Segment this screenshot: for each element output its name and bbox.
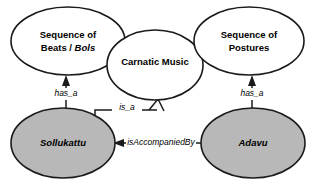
edge-label-has-a-postures: has_a <box>240 88 263 98</box>
node-sequence-of-postures[interactable]: Sequence of Postures <box>194 7 304 75</box>
node-label-postures-line2: Postures <box>229 42 270 53</box>
edge-label-is-accompanied-by: isAccompaniedBy <box>127 137 195 147</box>
edge-label-is-a: is_a <box>119 102 135 112</box>
node-carnatic-music[interactable]: Carnatic Music <box>107 30 203 100</box>
edge-is-a-carnatic: is_a <box>95 99 164 123</box>
node-label-beats-line2: Beats / Bols <box>41 42 95 53</box>
edge-label-has-a-beats: has_a <box>54 88 77 98</box>
edge-has-a-postures: has_a <box>234 75 270 108</box>
node-label-beats-line1: Sequence of <box>40 29 97 40</box>
node-sollukattu[interactable]: Sollukattu <box>11 108 115 178</box>
node-label-carnatic-music: Carnatic Music <box>121 56 189 67</box>
node-label-postures-line1: Sequence of <box>221 29 278 40</box>
arrowhead-filled-beats <box>62 75 70 86</box>
node-label-adavu: Adavu <box>237 137 267 148</box>
edge-is-accompanied-by: isAccompaniedBy <box>113 137 201 149</box>
node-label-beats-plain: Beats / <box>41 42 75 53</box>
node-label-beats-italic: Bols <box>75 42 96 53</box>
edge-has-a-beats: has_a <box>48 75 84 108</box>
node-label-sollukattu: Sollukattu <box>40 137 86 148</box>
entity-relationship-diagram: has_a has_a is_a isAccompaniedBy Seq <box>0 0 312 192</box>
node-adavu[interactable]: Adavu <box>201 108 305 178</box>
diagram-canvas: has_a has_a is_a isAccompaniedBy Seq <box>0 0 312 192</box>
arrowhead-filled-postures <box>248 75 256 86</box>
arrowhead-open-carnatic <box>149 99 164 111</box>
